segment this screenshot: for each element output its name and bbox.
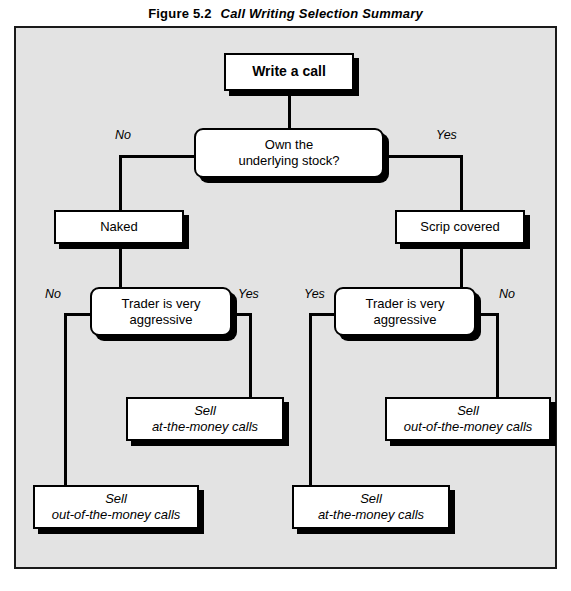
flowchart-canvas: Write a call Own the underlying stock? N…	[16, 28, 555, 567]
figure-caption: Call Writing Selection Summary	[221, 6, 423, 21]
node-sell-at-the-money-left[interactable]: Sell at-the-money calls	[126, 397, 284, 441]
connector-left-yes-vertical	[249, 313, 252, 397]
connector-own-stock-yes-vertical	[460, 155, 463, 212]
node-trader-aggressive-right-label: Trader is very aggressive	[366, 296, 445, 328]
node-sell-out-of-the-money-left-label: Sell out-of-the-money calls	[52, 491, 181, 523]
connector-left-no-vertical	[64, 313, 67, 485]
flowchart-frame: Write a call Own the underlying stock? N…	[14, 26, 557, 569]
branch-label-left-aggressive-no: No	[45, 287, 61, 301]
node-scrip-covered-label: Scrip covered	[420, 219, 499, 235]
node-own-underlying-stock-label: Own the underlying stock?	[238, 137, 339, 169]
node-naked[interactable]: Naked	[54, 210, 184, 244]
branch-label-right-aggressive-no: No	[499, 287, 515, 301]
branch-label-left-aggressive-yes: Yes	[238, 287, 259, 301]
connector-own-stock-yes-horizontal	[384, 155, 463, 158]
node-sell-out-of-the-money-right-label: Sell out-of-the-money calls	[404, 403, 533, 435]
node-own-underlying-stock[interactable]: Own the underlying stock?	[194, 128, 384, 178]
node-scrip-covered[interactable]: Scrip covered	[395, 210, 525, 244]
node-trader-aggressive-left[interactable]: Trader is very aggressive	[90, 287, 232, 336]
node-trader-aggressive-left-label: Trader is very aggressive	[122, 296, 201, 328]
node-write-a-call[interactable]: Write a call	[224, 53, 354, 91]
connector-right-yes-vertical	[309, 313, 312, 485]
connector-own-stock-no-horizontal	[119, 155, 194, 158]
figure-number: Figure 5.2	[148, 6, 211, 21]
connector-naked-to-left-decision	[119, 244, 122, 288]
node-sell-at-the-money-right-label: Sell at-the-money calls	[318, 491, 424, 523]
node-sell-at-the-money-right[interactable]: Sell at-the-money calls	[292, 485, 450, 529]
connector-own-stock-no-vertical	[119, 155, 122, 212]
connector-start-to-own-stock	[288, 89, 291, 129]
node-write-a-call-label: Write a call	[252, 63, 326, 80]
figure-title: Figure 5.2Call Writing Selection Summary	[0, 6, 571, 21]
node-naked-label: Naked	[100, 219, 138, 235]
branch-label-right-aggressive-yes: Yes	[304, 287, 325, 301]
node-trader-aggressive-right[interactable]: Trader is very aggressive	[334, 287, 476, 336]
branch-label-own-stock-yes: Yes	[436, 128, 457, 142]
connector-right-no-vertical	[496, 313, 499, 397]
node-sell-at-the-money-left-label: Sell at-the-money calls	[152, 403, 258, 435]
branch-label-own-stock-no: No	[115, 128, 131, 142]
node-sell-out-of-the-money-left[interactable]: Sell out-of-the-money calls	[33, 485, 199, 529]
node-sell-out-of-the-money-right[interactable]: Sell out-of-the-money calls	[385, 397, 551, 441]
connector-scrip-to-right-decision	[460, 244, 463, 288]
